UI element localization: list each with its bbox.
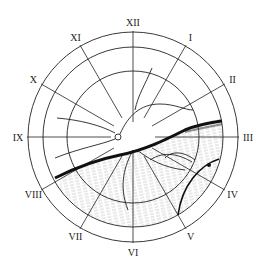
clock-label-VI: VI (128, 247, 139, 258)
clock-label-V: V (187, 231, 195, 242)
clock-label-IX: IX (13, 132, 24, 143)
clock-label-VII: VII (69, 231, 83, 242)
clock-label-VIII: VIII (25, 189, 42, 200)
clock-label-IV: IV (227, 189, 238, 200)
lesion-dot (207, 163, 211, 167)
clock-label-I: I (189, 32, 192, 43)
spoke-XI (80, 45, 122, 118)
spoke-X (41, 84, 114, 126)
retina-diagram: XIIIIIIIIIVVVIVIIVIIIIXXXI (0, 0, 264, 269)
clock-label-III: III (243, 132, 253, 143)
clock-label-II: II (229, 74, 236, 85)
optic-disc (115, 134, 121, 140)
clock-label-X: X (30, 74, 38, 85)
clock-label-XI: XI (70, 32, 81, 43)
clock-label-XII: XII (126, 17, 140, 28)
